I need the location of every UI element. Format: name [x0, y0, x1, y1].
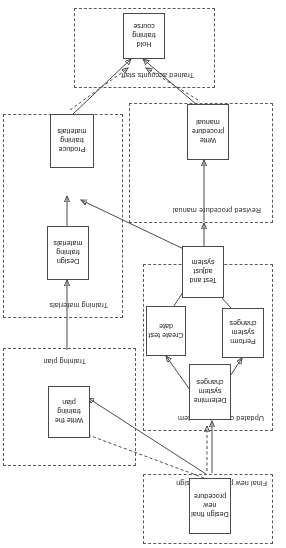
node-produce-training-materials[interactable]: Produce training materials	[50, 114, 94, 168]
edge-determine-to-create-test	[166, 356, 190, 390]
node-hold-training-course[interactable]: Hold training course	[123, 13, 165, 59]
node-test-and-adjust-system[interactable]: Test and adjust system	[182, 246, 224, 298]
node-write-the-training-plan[interactable]: Write the training plan	[48, 386, 90, 438]
diagram-canvas: Design final new procedure Determine sys…	[0, 0, 286, 548]
node-perform-system-changes[interactable]: Perform system changes	[222, 308, 264, 358]
node-determine-system-changes[interactable]: Determine system changes	[189, 364, 231, 420]
edge-materials-boundary-dashed	[70, 68, 128, 110]
node-design-training-materials[interactable]: Design training materials	[47, 226, 89, 280]
node-write-procedure-manual[interactable]: Write procedure manual	[187, 104, 229, 160]
edge-manual-to-hold-course	[143, 59, 196, 104]
edge-training-plan-to-design-materials	[81, 200, 190, 252]
node-create-test-date[interactable]: Create test date	[146, 306, 186, 356]
node-design-final-new-procedure[interactable]: Design final new procedure	[189, 478, 231, 534]
edge-design-to-training-plan-dashed	[83, 433, 204, 478]
connector-layer	[0, 0, 286, 548]
